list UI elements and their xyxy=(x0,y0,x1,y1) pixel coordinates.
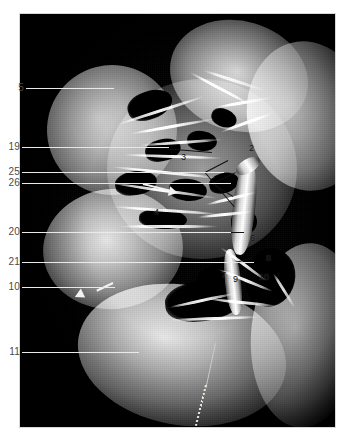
figure-plate: 234687910 519252620211011 xyxy=(0,0,351,444)
label-19-leader xyxy=(22,147,169,148)
label-10: 10 xyxy=(4,282,20,292)
inner-7: 7 xyxy=(221,271,226,280)
label-11: 11 xyxy=(4,347,20,357)
label-20: 20 xyxy=(4,227,20,237)
inner-6: 6 xyxy=(250,234,255,243)
inner-2: 2 xyxy=(249,144,254,153)
inner-10: 10 xyxy=(259,273,269,282)
label-25: 25 xyxy=(4,167,20,177)
inner-3: 3 xyxy=(181,153,186,162)
label-25-leader xyxy=(22,172,224,173)
label-26-leader xyxy=(22,183,231,184)
inner-4: 4 xyxy=(154,208,159,217)
inner-8: 8 xyxy=(266,254,271,263)
label-26: 26 xyxy=(4,178,20,188)
specimen-tissue xyxy=(19,13,336,428)
label-19: 19 xyxy=(4,142,20,152)
dissection-photograph: 234687910 xyxy=(19,13,336,428)
label-5-leader xyxy=(26,88,114,89)
vessel-branch xyxy=(119,225,219,228)
inner-9: 9 xyxy=(233,275,238,284)
label-21-leader xyxy=(22,262,254,263)
label-20-leader xyxy=(22,232,231,233)
label-5: 5 xyxy=(8,83,24,93)
figure-caption xyxy=(19,433,336,444)
label-11-leader xyxy=(22,352,139,353)
label-21: 21 xyxy=(4,257,20,267)
label-10-leader xyxy=(22,287,115,288)
